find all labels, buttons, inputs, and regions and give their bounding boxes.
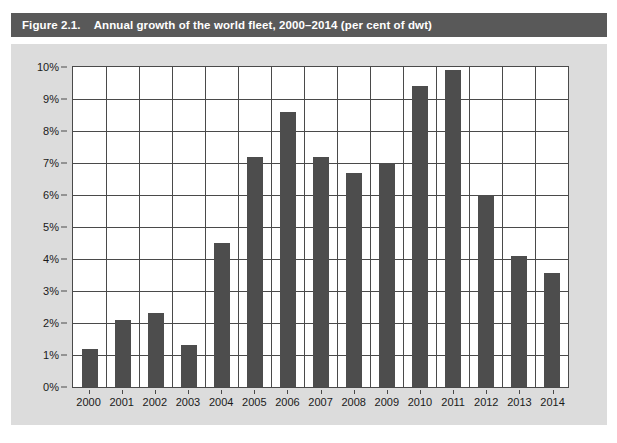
y-axis-tick-mark xyxy=(61,67,67,68)
figure-container: Figure 2.1. Annual growth of the world f… xyxy=(0,0,617,443)
figure-number: Figure 2.1. xyxy=(22,19,81,31)
x-axis-tick-mark xyxy=(321,390,322,394)
bar-cell xyxy=(469,67,502,387)
x-axis-cell: 2003 xyxy=(171,390,204,412)
bar-2004[interactable] xyxy=(214,243,230,387)
x-axis-tick-label: 2000 xyxy=(76,396,100,408)
y-axis-tick-mark xyxy=(61,131,67,132)
y-axis-tick-mark xyxy=(61,99,67,100)
x-axis-tick-label: 2010 xyxy=(408,396,432,408)
x-axis-tick-label: 2003 xyxy=(176,396,200,408)
x-axis-tick-label: 2013 xyxy=(507,396,531,408)
bar-cell xyxy=(370,67,403,387)
x-axis-tick-mark xyxy=(486,390,487,394)
y-axis-tick-label: 3% xyxy=(43,285,59,297)
y-axis-tick-label: 7% xyxy=(43,157,59,169)
x-axis-cell: 2011 xyxy=(437,390,470,412)
x-axis-cell: 2009 xyxy=(370,390,403,412)
bar-cell xyxy=(238,67,271,387)
y-axis-tick-label: 0% xyxy=(43,381,59,393)
x-axis-tick-label: 2005 xyxy=(242,396,266,408)
y-axis-tick-label: 6% xyxy=(43,189,59,201)
x-axis-tick-label: 2012 xyxy=(474,396,498,408)
x-axis-cell: 2002 xyxy=(138,390,171,412)
bar-2014[interactable] xyxy=(544,273,560,387)
bar-cell xyxy=(271,67,304,387)
y-axis-tick-mark xyxy=(61,291,67,292)
x-axis-cell: 2006 xyxy=(271,390,304,412)
chart-panel: 0%1%2%3%4%5%6%7%8%9%10% 2000200120022003… xyxy=(11,44,607,425)
y-axis-tick-mark xyxy=(61,195,67,196)
y-axis-tick-label: 4% xyxy=(43,253,59,265)
bar-2005[interactable] xyxy=(247,157,263,387)
x-axis-tick-label: 2007 xyxy=(308,396,332,408)
x-axis-tick-mark xyxy=(453,390,454,394)
bar-2009[interactable] xyxy=(379,163,395,387)
bar-2006[interactable] xyxy=(280,112,296,387)
y-axis-tick-label: 5% xyxy=(43,221,59,233)
x-axis-cell: 2010 xyxy=(403,390,436,412)
x-axis-tick-mark xyxy=(254,390,255,394)
bar-cell xyxy=(502,67,535,387)
x-axis-cell: 2005 xyxy=(238,390,271,412)
bar-series xyxy=(73,67,568,387)
x-axis-tick-mark xyxy=(188,390,189,394)
plot-area xyxy=(72,66,569,388)
x-axis-tick-label: 2008 xyxy=(341,396,365,408)
bar-cell xyxy=(139,67,172,387)
bar-cell xyxy=(535,67,568,387)
bar-cell xyxy=(436,67,469,387)
bar-cell xyxy=(172,67,205,387)
y-axis-tick-mark xyxy=(61,227,67,228)
y-axis-tick-mark xyxy=(61,163,67,164)
bar-2013[interactable] xyxy=(511,256,527,387)
x-axis-cell: 2001 xyxy=(105,390,138,412)
y-axis-tick-mark xyxy=(61,323,67,324)
bar-cell xyxy=(304,67,337,387)
y-axis-tick-mark xyxy=(61,387,67,388)
x-axis-tick-mark xyxy=(155,390,156,394)
y-axis-tick-mark xyxy=(61,259,67,260)
x-axis-tick-label: 2004 xyxy=(209,396,233,408)
bar-cell xyxy=(403,67,436,387)
bar-2011[interactable] xyxy=(445,70,461,387)
x-axis-cell: 2004 xyxy=(205,390,238,412)
bar-cell xyxy=(106,67,139,387)
x-axis-tick-mark xyxy=(354,390,355,394)
x-axis-cell: 2014 xyxy=(536,390,569,412)
x-axis-tick-label: 2002 xyxy=(143,396,167,408)
x-axis-tick-label: 2011 xyxy=(441,396,465,408)
y-axis-tick-label: 8% xyxy=(43,125,59,137)
bar-2001[interactable] xyxy=(115,320,131,387)
x-axis-tick-mark xyxy=(221,390,222,394)
bar-2003[interactable] xyxy=(181,345,197,387)
x-axis-tick-mark xyxy=(553,390,554,394)
y-axis-tick-label: 1% xyxy=(43,349,59,361)
y-axis-tick-label: 10% xyxy=(37,61,59,73)
x-axis-tick-label: 2006 xyxy=(275,396,299,408)
x-axis-cell: 2000 xyxy=(72,390,105,412)
x-axis-tick-mark xyxy=(122,390,123,394)
bar-2010[interactable] xyxy=(412,86,428,387)
bar-2012[interactable] xyxy=(478,195,494,387)
x-axis-tick-mark xyxy=(89,390,90,394)
figure-title-bar: Figure 2.1. Annual growth of the world f… xyxy=(11,13,607,37)
bar-2007[interactable] xyxy=(313,157,329,387)
x-axis-tick-label: 2014 xyxy=(540,396,564,408)
x-axis: 2000200120022003200420052006200720082009… xyxy=(72,390,569,412)
y-axis-tick-label: 9% xyxy=(43,93,59,105)
bar-cell xyxy=(337,67,370,387)
x-axis-tick-label: 2001 xyxy=(109,396,133,408)
bar-2000[interactable] xyxy=(82,349,98,387)
figure-caption: Annual growth of the world fleet, 2000–2… xyxy=(94,19,432,31)
x-axis-tick-mark xyxy=(420,390,421,394)
x-axis-cell: 2013 xyxy=(503,390,536,412)
x-axis-tick-label: 2009 xyxy=(375,396,399,408)
y-axis-tick-label: 2% xyxy=(43,317,59,329)
x-axis-cell: 2008 xyxy=(337,390,370,412)
x-axis-cell: 2012 xyxy=(470,390,503,412)
y-axis-tick-mark xyxy=(61,355,67,356)
x-axis-tick-mark xyxy=(287,390,288,394)
bar-2002[interactable] xyxy=(148,313,164,387)
bar-2008[interactable] xyxy=(346,173,362,387)
